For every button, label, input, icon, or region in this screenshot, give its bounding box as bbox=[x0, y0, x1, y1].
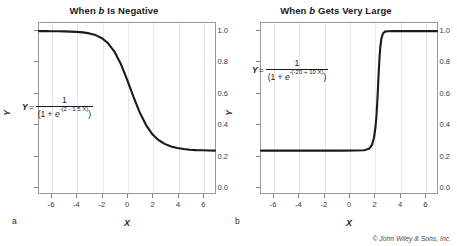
panel-b-xtick-label: -6 bbox=[263, 200, 283, 209]
panel-a-xtick-label: 4 bbox=[168, 200, 188, 209]
panel-b-ytick-label: 0.4 bbox=[424, 120, 450, 129]
den-suffix: ) bbox=[88, 109, 91, 119]
panel-a-xtick-mark bbox=[76, 194, 77, 198]
panel-b-letter: b bbox=[235, 216, 240, 226]
panel-a-ytick-mark bbox=[34, 30, 38, 31]
panel-a-xtick-label: -4 bbox=[66, 200, 86, 209]
panel-a-equation-equals: = bbox=[29, 102, 34, 112]
den-prefix: (1 + bbox=[268, 72, 285, 82]
panel-b-ytick-mark bbox=[256, 93, 260, 94]
panel-b-ytick-label: 0.6 bbox=[424, 88, 450, 97]
panel-a-axis-label-x: X bbox=[38, 218, 216, 228]
panel-a-equation-denominator: (1 + e-(2 - 1.5 X)) bbox=[36, 107, 94, 119]
panel-a: When b Is Negative 1.0 0.8 0.6 0.4 0.2 0… bbox=[0, 0, 228, 232]
panel-a-ytick-mark bbox=[34, 124, 38, 125]
panel-b-xtick-label: 4 bbox=[390, 200, 410, 209]
den-exponent: -(-20 + 10 X) bbox=[290, 69, 324, 75]
panel-a-title: When b Is Negative bbox=[0, 5, 228, 16]
panel-b-equation-equals: = bbox=[259, 65, 264, 75]
copyright-notice: © John Wiley & Sons, Inc. bbox=[372, 235, 451, 242]
panel-a-ytick-mark bbox=[34, 156, 38, 157]
panel-a-xtick-mark bbox=[152, 194, 153, 198]
panel-b-xtick-mark bbox=[400, 194, 401, 198]
panel-b-equation-fraction: 1 (1 + e-(-20 + 10 X)) bbox=[266, 58, 329, 82]
panel-b-xtick-label: 2 bbox=[365, 200, 385, 209]
panel-a-xtick-mark bbox=[127, 194, 128, 198]
panel-b-ytick-label: 0.0 bbox=[424, 183, 450, 192]
den-e: e bbox=[55, 109, 60, 119]
panel-b-xtick-mark bbox=[425, 194, 426, 198]
panel-b-ytick-label: 1.0 bbox=[424, 26, 450, 35]
panel-a-letter: a bbox=[12, 216, 17, 226]
panel-b-xtick-mark bbox=[349, 194, 350, 198]
panel-a-xtick-mark bbox=[178, 194, 179, 198]
panel-b-ytick-label: 0.2 bbox=[424, 151, 450, 160]
panel-a-title-prefix: When bbox=[70, 5, 99, 16]
panel-a-xtick-label: 6 bbox=[193, 200, 213, 209]
panel-a-xtick-label: 0 bbox=[117, 200, 137, 209]
den-prefix: (1 + bbox=[38, 109, 55, 119]
panel-a-equation-lhs: Y bbox=[22, 102, 28, 112]
den-e: e bbox=[285, 72, 290, 82]
panel-b-xtick-label: 6 bbox=[415, 200, 435, 209]
panel-b-ytick-mark bbox=[256, 187, 260, 188]
panel-a-axis-label-y: Y bbox=[2, 110, 12, 116]
panel-a-xtick-mark bbox=[51, 194, 52, 198]
panel-b-plot-frame bbox=[260, 22, 438, 194]
den-exponent: -(2 - 1.5 X) bbox=[60, 106, 89, 112]
panel-b-equation-lhs: Y bbox=[252, 65, 258, 75]
panel-b-xtick-mark bbox=[374, 194, 375, 198]
panel-a-xtick-mark bbox=[203, 194, 204, 198]
panel-a-xtick-label: 2 bbox=[143, 200, 163, 209]
panel-a-equation-fraction: 1 (1 + e-(2 - 1.5 X)) bbox=[36, 95, 94, 119]
panel-b-ytick-mark bbox=[256, 156, 260, 157]
panel-a-xtick-label: -2 bbox=[92, 200, 112, 209]
panel-a-ytick-mark bbox=[34, 187, 38, 188]
panel-b-xtick-label: 0 bbox=[339, 200, 359, 209]
panel-b-equation-numerator: 1 bbox=[289, 58, 306, 69]
panel-b-xtick-label: -4 bbox=[288, 200, 308, 209]
panel-b-title: When b Gets Very Large bbox=[222, 5, 450, 16]
panel-a-xtick-label: -6 bbox=[41, 200, 61, 209]
panel-a-xtick-mark bbox=[102, 194, 103, 198]
den-suffix: ) bbox=[323, 72, 326, 82]
panel-a-ytick-mark bbox=[34, 93, 38, 94]
panel-b-ytick-label: 0.8 bbox=[424, 57, 450, 66]
panel-a-title-suffix: Is Negative bbox=[104, 5, 158, 16]
panel-a-ytick-mark bbox=[34, 61, 38, 62]
figure-container: When b Is Negative 1.0 0.8 0.6 0.4 0.2 0… bbox=[0, 0, 457, 246]
panel-b-axis-label-x: X bbox=[260, 218, 438, 228]
panel-b: When b Gets Very Large 1.0 0.8 0.6 0.4 0… bbox=[222, 0, 450, 232]
panel-a-equation: Y = 1 (1 + e-(2 - 1.5 X)) bbox=[22, 95, 93, 119]
panel-b-equation: Y = 1 (1 + e-(-20 + 10 X)) bbox=[252, 58, 328, 82]
panel-b-xtick-mark bbox=[324, 194, 325, 198]
panel-b-curve bbox=[261, 23, 437, 193]
panel-b-ytick-mark bbox=[256, 30, 260, 31]
panel-b-axis-label-y: Y bbox=[224, 110, 234, 116]
panel-b-xtick-mark bbox=[273, 194, 274, 198]
panel-b-title-prefix: When bbox=[280, 5, 309, 16]
panel-b-equation-denominator: (1 + e-(-20 + 10 X)) bbox=[266, 70, 329, 82]
panel-b-xtick-label: -2 bbox=[314, 200, 334, 209]
panel-b-xtick-mark bbox=[298, 194, 299, 198]
panel-a-equation-numerator: 1 bbox=[56, 95, 73, 106]
panel-b-title-suffix: Gets Very Large bbox=[315, 5, 392, 16]
panel-b-ytick-mark bbox=[256, 124, 260, 125]
